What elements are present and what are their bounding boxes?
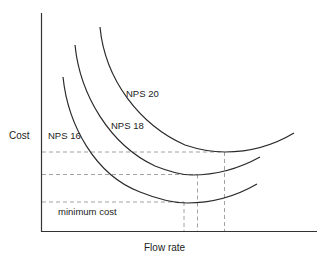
nps18-curve [75, 45, 260, 175]
x-axis-label: Flow rate [144, 242, 186, 253]
minimum-cost-label: minimum cost [58, 206, 117, 217]
nps16-curve [63, 77, 257, 203]
cost-vs-flow-chart: NPS 20 NPS 18 NPS 16 minimum cost Cost F… [0, 0, 324, 258]
nps20-label: NPS 20 [126, 88, 159, 99]
y-axis-label: Cost [9, 130, 30, 141]
nps18-label: NPS 18 [111, 120, 144, 131]
guide-lines [42, 152, 225, 231]
nps16-label: NPS 16 [48, 130, 81, 141]
